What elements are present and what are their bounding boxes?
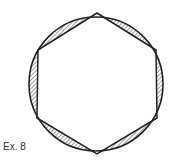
circle-outline	[29, 17, 163, 151]
example-label: Ex. 8	[3, 141, 26, 152]
hexagon-in-circle-diagram	[0, 0, 174, 167]
